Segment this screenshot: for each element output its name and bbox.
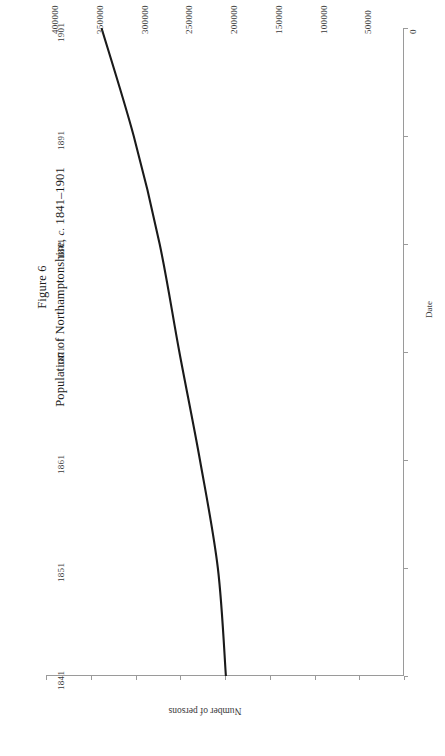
- value-axis-tick: [359, 676, 360, 680]
- date-axis-title: Date: [424, 301, 434, 318]
- value-axis-tick: [136, 676, 137, 680]
- date-axis-tick-label: 1881: [56, 239, 66, 258]
- value-axis-tick: [46, 676, 47, 680]
- figure-6-population-chart: Figure 6 Population of Northamptonshire,…: [0, 0, 445, 756]
- value-axis-tick-label: 100000: [319, 5, 329, 34]
- date-axis-tick: [404, 28, 408, 29]
- date-axis-tick-label: 1891: [56, 131, 66, 150]
- value-axis-tick-label: 250000: [184, 5, 194, 34]
- value-axis-tick: [91, 676, 92, 680]
- value-axis-tick-label: 200000: [229, 5, 239, 34]
- date-axis-tick: [404, 568, 408, 569]
- value-axis-tick: [315, 676, 316, 680]
- value-axis-title: Number of persons: [120, 706, 290, 716]
- date-axis-tick-label: 1841: [56, 671, 66, 690]
- date-axis-tick: [404, 676, 408, 677]
- value-axis-tick-label: 150000: [274, 5, 284, 34]
- plot-area: 4000003500003000002500002000001500001000…: [46, 28, 404, 676]
- value-axis-tick-label: 300000: [140, 5, 150, 34]
- date-axis-tick-label: 1871: [56, 347, 66, 366]
- date-axis-tick: [404, 136, 408, 137]
- value-axis-tick: [180, 676, 181, 680]
- value-axis-tick: [270, 676, 271, 680]
- date-axis-tick-label: 1851: [56, 563, 66, 582]
- date-axis-tick-label: 1861: [56, 455, 66, 474]
- date-axis-tick: [404, 352, 408, 353]
- date-axis-tick: [404, 460, 408, 461]
- population-line-curve: [46, 28, 404, 676]
- value-axis-tick: [225, 676, 226, 680]
- value-axis-tick-label: 350000: [95, 5, 105, 34]
- date-axis-tick: [404, 244, 408, 245]
- value-axis-tick-label: 50000: [363, 10, 373, 34]
- date-axis-tick-label: 1901: [56, 23, 66, 42]
- value-axis-tick-label: 0: [408, 29, 418, 34]
